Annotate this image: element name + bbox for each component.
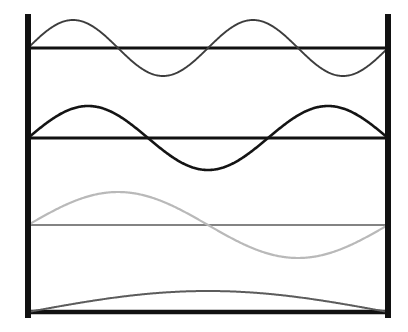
wave-canvas <box>0 0 408 332</box>
background <box>0 0 408 332</box>
standing-wave-diagram <box>0 0 408 332</box>
